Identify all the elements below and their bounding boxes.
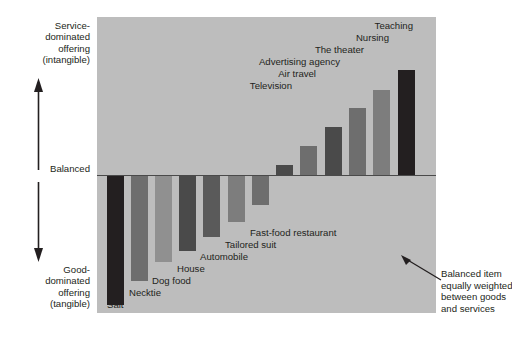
bar-label-house: House [177,263,205,274]
bar-label-fast-food-restaurant: Fast-food restaurant [250,227,336,238]
balanced-baseline [97,175,436,176]
bar-label-television: Television [250,80,292,91]
bar-automobile [203,175,220,237]
bar-label-advertising-agency: Advertising agency [259,56,340,67]
bar-label-the-theater: The theater [315,44,364,55]
bar-nursing [373,90,390,175]
callout-line2: equally weighted [441,280,512,292]
plot-area: SaltNecktieDog foodHouseAutomobileTailor… [97,17,436,313]
bar-salt [107,175,124,305]
bar-air-travel [300,146,317,175]
bar-label-teaching: Teaching [375,20,413,31]
bar-label-dog-food: Dog food [152,275,191,286]
callout-arrow-icon [397,252,445,282]
bar-teaching [398,70,415,175]
callout-line3: between goods [441,291,512,303]
bar-tailored-suit [228,175,245,222]
callout-balanced-item: Balanced item equally weighted between g… [441,268,512,314]
bar-the-theater [349,108,366,175]
bar-label-necktie: Necktie [129,287,161,298]
bar-fast-food-restaurant [252,175,269,205]
bar-television [276,165,293,175]
callout-line1: Balanced item [441,268,512,280]
bar-advertising-agency [325,127,342,175]
bar-label-salt: Salt [107,299,124,310]
axis-double-arrow-icon [0,0,97,340]
bar-label-air-travel: Air travel [278,68,316,79]
bar-label-automobile: Automobile [200,251,248,262]
bar-house [179,175,196,251]
bar-dog-food [155,175,172,262]
y-axis-area: Service- dominated offering (intangible)… [0,0,97,340]
bar-necktie [131,175,148,281]
bar-label-tailored-suit: Tailored suit [225,239,276,250]
bar-label-nursing: Nursing [356,32,389,43]
callout-line4: and services [441,303,512,315]
